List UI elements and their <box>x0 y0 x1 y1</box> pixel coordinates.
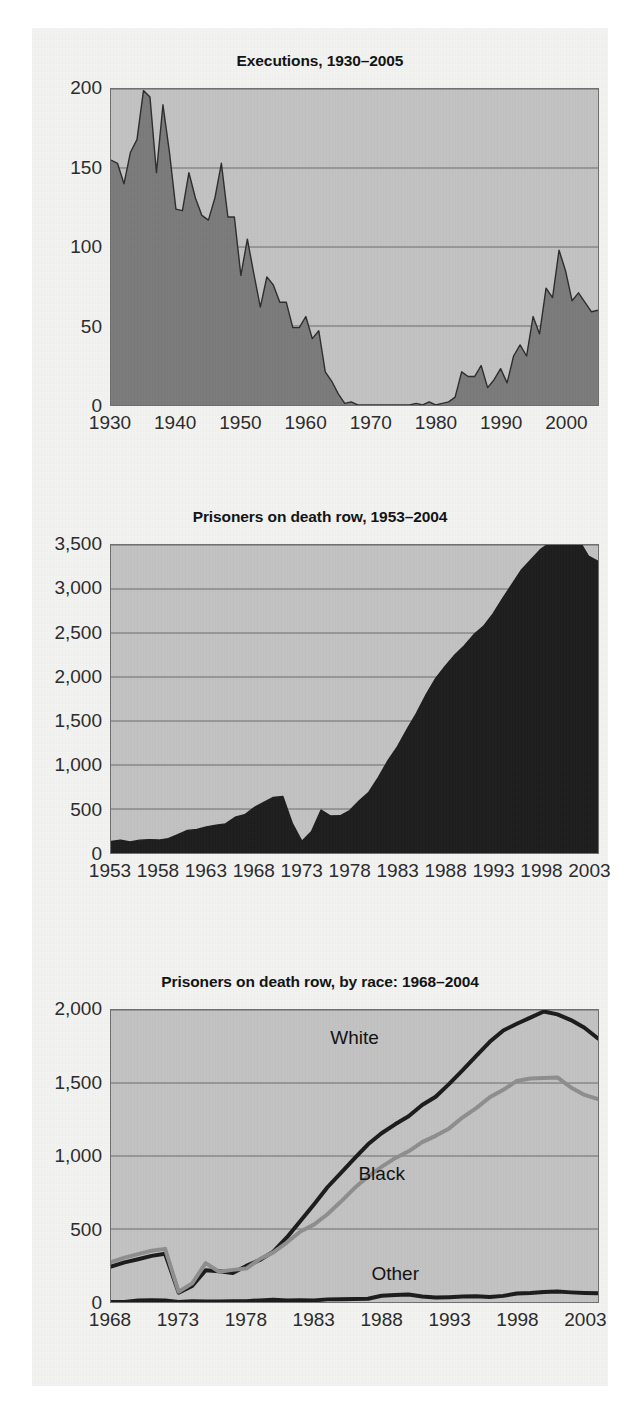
area-fill <box>111 91 598 405</box>
x-tick-label: 1978 <box>225 1309 267 1331</box>
y-tick-label: 500 <box>70 1219 102 1241</box>
series-label-white: White <box>330 1027 379 1049</box>
x-tick-label: 1950 <box>219 412 261 434</box>
x-tick-label: 1940 <box>154 412 196 434</box>
y-tick-label: 200 <box>70 77 102 99</box>
chart-title-executions: Executions, 1930–2005 <box>32 52 608 70</box>
x-tick-label: 1998 <box>520 860 562 882</box>
x-tick-label: 1983 <box>377 860 419 882</box>
plot-area-death-row-by-race <box>110 1009 599 1303</box>
x-tick-label: 1978 <box>329 860 371 882</box>
chart-canvas <box>111 545 598 853</box>
x-tick-label: 1998 <box>496 1309 538 1331</box>
x-tick-label: 1993 <box>428 1309 470 1331</box>
y-axis-labels-executions: 200150100500 <box>32 88 110 406</box>
y-tick-label: 1,500 <box>54 710 102 732</box>
x-tick-label: 1963 <box>185 860 227 882</box>
x-tick-label: 1973 <box>281 860 323 882</box>
y-tick-label: 3,500 <box>54 533 102 555</box>
x-tick-label: 1968 <box>89 1309 131 1331</box>
series-line-black <box>111 1077 598 1291</box>
chart-title-death-row-by-race: Prisoners on death row, by race: 1968–20… <box>32 973 608 991</box>
chart-title-death-row-total: Prisoners on death row, 1953–2004 <box>32 508 608 526</box>
x-tick-label: 1930 <box>89 412 131 434</box>
series-line-white <box>111 1011 598 1292</box>
y-tick-label: 2,000 <box>54 666 102 688</box>
x-tick-label: 1993 <box>472 860 514 882</box>
figure-sheet: Executions, 1930–2005 200150100500 19301… <box>32 28 608 1386</box>
x-tick-label: 1988 <box>361 1309 403 1331</box>
x-tick-label: 2000 <box>545 412 587 434</box>
y-tick-label: 1,000 <box>54 1145 102 1167</box>
y-tick-label: 500 <box>70 799 102 821</box>
x-tick-label: 1968 <box>233 860 275 882</box>
y-axis-labels-death-row-total: 3,5003,0002,5002,0001,5001,0005000 <box>32 544 110 854</box>
x-tick-label: 1983 <box>293 1309 335 1331</box>
plot-area-death-row-total <box>110 544 599 854</box>
chart-executions: Executions, 1930–2005 200150100500 19301… <box>32 52 608 452</box>
series-line-other <box>111 1291 598 1302</box>
chart-canvas <box>111 89 598 405</box>
chart-death-row-by-race: Prisoners on death row, by race: 1968–20… <box>32 973 608 1373</box>
x-tick-label: 1973 <box>157 1309 199 1331</box>
y-tick-label: 150 <box>70 157 102 179</box>
y-tick-label: 3,000 <box>54 577 102 599</box>
x-tick-label: 2003 <box>564 1309 606 1331</box>
x-tick-label: 1960 <box>284 412 326 434</box>
x-tick-label: 2003 <box>568 860 610 882</box>
y-tick-label: 1,000 <box>54 754 102 776</box>
x-tick-label: 1953 <box>89 860 131 882</box>
y-tick-label: 100 <box>70 236 102 258</box>
page-root: Executions, 1930–2005 200150100500 19301… <box>0 0 640 1414</box>
y-tick-label: 2,000 <box>54 998 102 1020</box>
x-tick-label: 1990 <box>480 412 522 434</box>
series-label-black: Black <box>358 1163 404 1185</box>
chart-death-row-total: Prisoners on death row, 1953–2004 3,5003… <box>32 508 608 908</box>
plot-area-executions <box>110 88 599 406</box>
x-tick-label: 1958 <box>137 860 179 882</box>
y-tick-label: 1,500 <box>54 1072 102 1094</box>
y-tick-label: 50 <box>81 316 102 338</box>
x-tick-label: 1970 <box>350 412 392 434</box>
x-tick-label: 1988 <box>424 860 466 882</box>
series-label-other: Other <box>371 1263 419 1285</box>
y-tick-label: 2,500 <box>54 622 102 644</box>
y-axis-labels-death-row-by-race: 2,0001,5001,0005000 <box>32 1009 110 1303</box>
area-fill <box>111 545 598 853</box>
x-tick-label: 1980 <box>415 412 457 434</box>
chart-canvas <box>111 1010 598 1302</box>
